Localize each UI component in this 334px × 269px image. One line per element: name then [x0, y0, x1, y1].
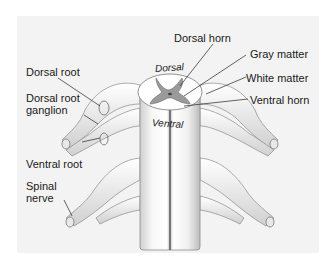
label-spinal-nerve-line2: nerve — [26, 192, 54, 204]
label-ventral-root: Ventral root — [26, 158, 82, 170]
label-dorsal-horn: Dorsal horn — [174, 32, 231, 44]
label-gray-matter: Gray matter — [250, 48, 308, 60]
label-dorsal-orientation: Dorsal — [155, 61, 185, 75]
lower-right-nerve — [200, 158, 274, 226]
spinal-cord-illustration — [0, 0, 334, 269]
central-canal — [168, 93, 172, 95]
label-spinal-nerve-line1: Spinal — [26, 180, 57, 192]
nerve-end-upper-left — [62, 139, 70, 149]
label-white-matter: White matter — [246, 72, 308, 84]
nerve-end-lower-left — [66, 217, 74, 227]
label-ventral-horn: Ventral horn — [250, 94, 309, 106]
label-dorsal-root: Dorsal root — [26, 66, 80, 78]
label-dorsal-root-ganglion-line1: Dorsal root — [26, 92, 80, 104]
nerve-end-lower-right — [266, 217, 274, 227]
nerve-end-upper-right — [270, 139, 278, 149]
label-dorsal-root-ganglion-line2: ganglion — [26, 104, 68, 116]
label-ventral-orientation: Ventral — [152, 117, 184, 131]
